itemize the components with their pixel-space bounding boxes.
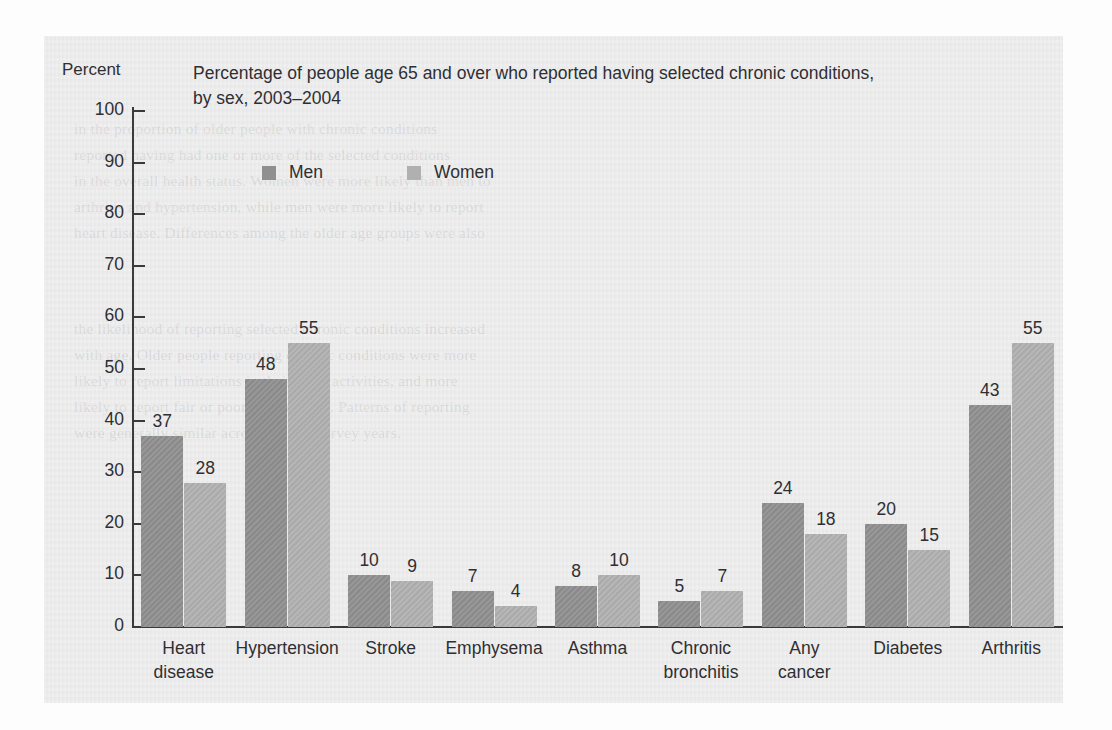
bar-group: 3728 <box>141 111 226 627</box>
bar-group: 4355 <box>969 111 1054 627</box>
bar-group: 57 <box>658 111 743 627</box>
bar-men[interactable] <box>658 601 700 627</box>
chart-title-line-2: by sex, 2003–2004 <box>193 88 341 108</box>
category-line-1: Diabetes <box>873 638 942 658</box>
bar-women[interactable] <box>908 550 950 627</box>
bar-men[interactable] <box>555 586 597 627</box>
bar-value-label-men: 24 <box>762 478 804 499</box>
bar-value-label-men: 43 <box>969 380 1011 401</box>
category-line-2: disease <box>154 662 214 682</box>
bar-men[interactable] <box>969 405 1011 627</box>
bar-value-label-women: 55 <box>288 318 330 339</box>
category-line-2: cancer <box>778 662 831 682</box>
bar-group: 2015 <box>865 111 950 627</box>
bar-value-label-women: 18 <box>805 509 847 530</box>
bar-value-label-men: 7 <box>452 566 494 587</box>
bar-women[interactable] <box>701 591 743 627</box>
x-axis-category-label: Arthritis <box>936 636 1086 660</box>
bar-value-label-women: 15 <box>908 525 950 546</box>
bar-value-label-women: 4 <box>495 581 537 602</box>
bar-women[interactable] <box>391 581 433 627</box>
bar-women[interactable] <box>184 483 226 627</box>
bar-women[interactable] <box>1012 343 1054 627</box>
bar-women[interactable] <box>598 575 640 627</box>
bar-value-label-men: 37 <box>141 411 183 432</box>
bar-value-label-men: 10 <box>348 550 390 571</box>
bar-men[interactable] <box>452 591 494 627</box>
bar-men[interactable] <box>348 575 390 627</box>
y-axis-title: Percent <box>62 60 121 80</box>
category-line-2: bronchitis <box>663 662 738 682</box>
y-axis-tick-label: 0 <box>68 615 124 636</box>
category-line-1: Stroke <box>365 638 416 658</box>
bar-value-label-men: 20 <box>865 499 907 520</box>
y-axis-tick-label: 50 <box>68 357 124 378</box>
bar-men[interactable] <box>245 379 287 627</box>
category-line-1: Chronic <box>671 638 731 658</box>
bar-value-label-men: 5 <box>658 576 700 597</box>
bar-value-label-women: 28 <box>184 458 226 479</box>
bar-group: 2418 <box>762 111 847 627</box>
bar-group: 4855 <box>245 111 330 627</box>
bar-group: 74 <box>452 111 537 627</box>
bar-value-label-men: 48 <box>245 354 287 375</box>
bar-group: 109 <box>348 111 433 627</box>
category-line-1: Any <box>789 638 819 658</box>
y-axis-tick-label: 70 <box>68 254 124 275</box>
y-axis-tick-label: 60 <box>68 305 124 326</box>
bar-value-label-women: 9 <box>391 556 433 577</box>
bar-men[interactable] <box>141 436 183 627</box>
bar-women[interactable] <box>805 534 847 627</box>
y-axis-tick-label: 100 <box>68 99 124 120</box>
bar-value-label-women: 10 <box>598 550 640 571</box>
y-axis-tick-label: 40 <box>68 409 124 430</box>
bar-women[interactable] <box>495 606 537 627</box>
bar-women[interactable] <box>288 343 330 627</box>
category-line-1: Arthritis <box>982 638 1041 658</box>
y-axis-tick-label: 80 <box>68 202 124 223</box>
bar-value-label-women: 55 <box>1012 318 1054 339</box>
chart-title-line-1: Percentage of people age 65 and over who… <box>193 63 874 83</box>
chart-title: Percentage of people age 65 and over who… <box>193 61 893 111</box>
bar-value-label-women: 7 <box>701 566 743 587</box>
bar-chart: Percent Percentage of people age 65 and … <box>0 0 1112 730</box>
y-axis-tick-label: 20 <box>68 512 124 533</box>
bar-men[interactable] <box>762 503 804 627</box>
y-axis-tick-label: 30 <box>68 460 124 481</box>
plot-area: 372848551097481057241820154355 <box>132 111 1063 627</box>
y-axis-tick-label: 10 <box>68 563 124 584</box>
category-line-1: Asthma <box>568 638 627 658</box>
y-axis-tick-label: 90 <box>68 151 124 172</box>
bar-men[interactable] <box>865 524 907 627</box>
bar-group: 810 <box>555 111 640 627</box>
category-line-1: Heart <box>162 638 205 658</box>
bar-value-label-men: 8 <box>555 561 597 582</box>
